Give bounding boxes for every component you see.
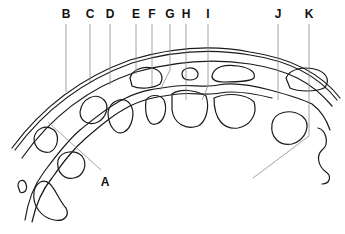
label-F: F bbox=[148, 8, 155, 20]
outer-layer-2 bbox=[15, 51, 337, 150]
label-D: D bbox=[106, 8, 115, 20]
label-G: G bbox=[165, 8, 174, 20]
label-I: I bbox=[206, 8, 209, 20]
lobule-left-1 bbox=[34, 127, 57, 152]
lobule-H-top bbox=[182, 68, 198, 80]
label-B: B bbox=[62, 8, 71, 20]
lobule-E bbox=[130, 67, 162, 88]
label-H: H bbox=[182, 8, 191, 20]
label-K: K bbox=[305, 8, 314, 20]
lobule-I bbox=[214, 95, 255, 129]
label-J: J bbox=[275, 8, 282, 20]
outer-layer-1 bbox=[12, 48, 340, 148]
label-E: E bbox=[132, 8, 140, 20]
lobule-H bbox=[172, 90, 208, 127]
lobule-G bbox=[146, 96, 166, 125]
inner-boundary-2 bbox=[32, 92, 272, 222]
lobule-row-I bbox=[212, 65, 254, 82]
label-C: C bbox=[86, 8, 95, 20]
label-A: A bbox=[101, 176, 110, 188]
cross-section-diagram bbox=[0, 0, 345, 234]
lobule-K-lower bbox=[318, 128, 329, 184]
leader-K bbox=[253, 24, 309, 178]
leader-I bbox=[202, 24, 208, 100]
lobule-left-4 bbox=[18, 180, 27, 192]
lobule-D bbox=[108, 100, 133, 133]
outer-layer-3 bbox=[22, 61, 332, 158]
lobule-J-lower bbox=[272, 112, 307, 144]
